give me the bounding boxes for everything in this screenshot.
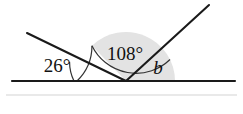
angle-label-26: 26° — [44, 55, 71, 76]
angle-diagram-canvas: 26° 108° b — [0, 0, 243, 114]
angle-label-108: 108° — [107, 43, 143, 64]
angle-label-b: b — [153, 57, 163, 78]
angle-diagram-figure: 26° 108° b — [0, 0, 243, 114]
